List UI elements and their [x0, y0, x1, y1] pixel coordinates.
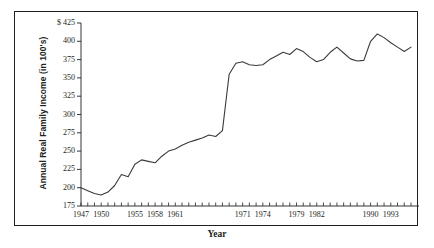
plot-area [15, 12, 419, 227]
x-axis-title: Year [0, 229, 434, 239]
chart-figure: Annual Real Family Income (in 100's) 175… [0, 0, 434, 248]
chart-frame: Annual Real Family Income (in 100's) 175… [14, 11, 418, 226]
data-series-line [81, 34, 411, 195]
